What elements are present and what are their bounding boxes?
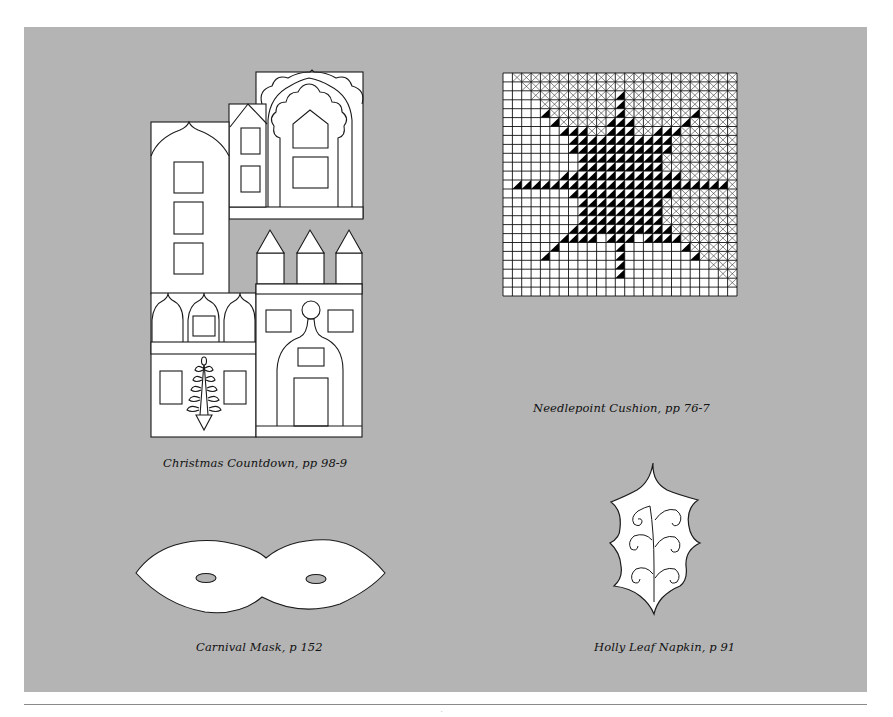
mask-template-icon: [136, 540, 385, 613]
star-needlepoint-chart-icon: [503, 73, 737, 296]
caption-needlepoint-cushion: Needlepoint Cushion, pp 76-7: [533, 401, 710, 415]
page-number-fragment: ʼ: [440, 711, 454, 717]
house-facade-template-icon: [151, 70, 363, 437]
holly-leaf-template-icon: [610, 463, 700, 614]
page-footer-rule: [24, 704, 867, 705]
templates-artwork: [0, 0, 893, 717]
caption-carnival-mask: Carnival Mask, p 152: [196, 640, 323, 654]
caption-christmas-countdown: Christmas Countdown, pp 98-9: [163, 456, 347, 470]
caption-holly-leaf-napkin: Holly Leaf Napkin, p 91: [594, 640, 735, 654]
